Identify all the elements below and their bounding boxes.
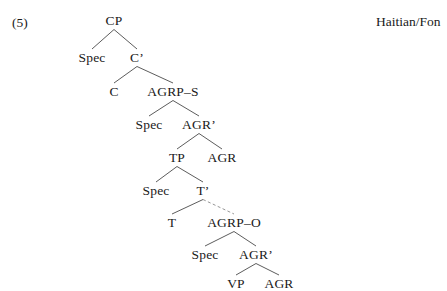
branch-agrp-s-to-agr-bar-s xyxy=(173,101,199,117)
tree-node-spec-agrs: Spec xyxy=(135,118,162,132)
branch-agrp-o-to-agr-bar-o xyxy=(234,232,256,247)
branch-tp-to-spec-tp xyxy=(156,167,177,183)
tree-node-agrp-o: AGRP–O xyxy=(207,216,261,230)
branch-cp-to-cbar xyxy=(114,30,137,50)
tree-node-tp: TP xyxy=(169,151,185,165)
tree-node-t: T xyxy=(168,216,176,230)
branch-agr-bar-s-to-agr-s xyxy=(199,134,222,150)
branch-agr-bar-o-to-vp xyxy=(236,264,256,276)
tree-node-spec-tp: Spec xyxy=(142,184,169,198)
tree-node-cp: CP xyxy=(106,14,123,28)
tree-node-c: C xyxy=(109,85,118,99)
branch-agrp-o-to-spec-agro xyxy=(205,232,234,247)
branch-agr-bar-s-to-tp xyxy=(177,134,199,150)
branch-cbar-to-agrp-s xyxy=(137,67,173,84)
branch-cp-to-spec-cp xyxy=(92,30,114,50)
tree-node-spec-cp: Spec xyxy=(78,51,105,65)
branch-agr-bar-o-to-agr-o xyxy=(256,264,279,276)
tree-node-tbar: T’ xyxy=(196,184,209,198)
language-label: Haitian/Fon xyxy=(376,15,441,29)
tree-node-agrp-s: AGRP–S xyxy=(147,85,198,99)
tree-node-agr-bar-s: AGR’ xyxy=(182,118,216,132)
branch-agrp-s-to-spec-agrs xyxy=(149,101,173,117)
tree-node-agr-s: AGR xyxy=(207,151,236,165)
tree-node-vp: VP xyxy=(227,277,245,291)
tree-node-spec-agro: Spec xyxy=(191,248,218,262)
branch-tp-to-tbar xyxy=(177,167,203,183)
tree-node-agr-o: AGR xyxy=(264,277,293,291)
example-number: (5) xyxy=(12,16,28,30)
branch-cbar-to-c xyxy=(114,67,137,84)
tree-node-cbar: C’ xyxy=(130,51,144,65)
branch-tbar-to-t xyxy=(172,200,203,215)
tree-node-agr-bar-o: AGR’ xyxy=(239,248,273,262)
branch-tbar-to-agrp-o xyxy=(203,200,234,215)
